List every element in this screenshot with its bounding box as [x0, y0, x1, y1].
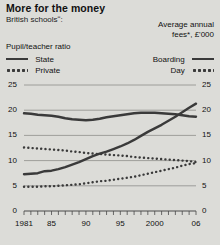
y-axis-right-tick-label: 0 [202, 206, 216, 215]
y-axis-right-tick-label: 5 [202, 181, 216, 190]
x-axis-tick-marks [24, 211, 196, 215]
y-axis-right-tick-label: 20 [202, 105, 216, 114]
y-axis-right-tick-label: 10 [202, 156, 216, 165]
x-axis-tick-label: 95 [103, 219, 137, 228]
chart-container: More for the money British schoolsʺ: Ave… [0, 0, 220, 245]
y-axis-left-tick-label: 20 [3, 105, 17, 114]
y-axis-right-tick-label: 15 [202, 130, 216, 139]
y-axis-left-tick-label: 10 [3, 156, 17, 165]
series-line-day [24, 163, 196, 187]
x-axis-tick-label: 2000 [138, 219, 172, 228]
x-axis-tick-label: 06 [179, 219, 213, 228]
y-axis-left-tick-label: 25 [3, 80, 17, 89]
series-paths [24, 104, 196, 187]
plot-area [0, 0, 220, 245]
y-axis-left-tick-label: 15 [3, 130, 17, 139]
y-axis-right-tick-label: 25 [202, 80, 216, 89]
y-axis-left-tick-label: 0 [3, 206, 17, 215]
x-axis-tick-label: 85 [35, 219, 69, 228]
y-axis-left-tick-label: 5 [3, 181, 17, 190]
x-axis-tick-label: 90 [69, 219, 103, 228]
